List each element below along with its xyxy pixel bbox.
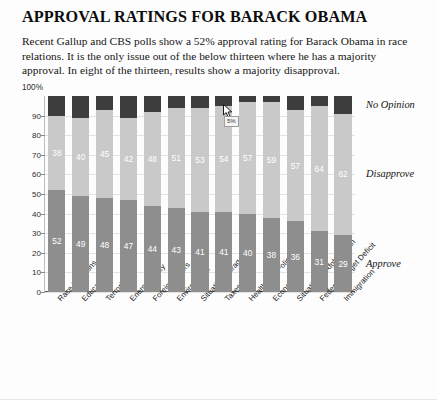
y-axis-tick-mark (40, 272, 45, 273)
y-axis-tick-label: 20 (21, 248, 41, 257)
bar-value-label: 43 (168, 245, 185, 255)
y-axis-tick-mark (40, 116, 45, 117)
infographic-page: APPROVAL RATINGS FOR BARACK OBAMA Recent… (0, 0, 437, 400)
bar-segment-no-opinion[interactable] (72, 96, 89, 118)
bar-value-label: 41 (191, 247, 208, 257)
plot-area: 01020304050607080905238Race Relations494… (45, 96, 355, 292)
bar-column[interactable]: 3657 (287, 96, 304, 292)
y-axis-max-label: 100% (22, 83, 43, 92)
bar-segment-no-opinion[interactable] (334, 96, 351, 114)
bar-segment-no-opinion[interactable] (311, 96, 328, 106)
legend-label-approve: Approve (366, 258, 401, 269)
y-axis-tick-mark (40, 135, 45, 136)
bar-column[interactable]: 4351 (168, 96, 185, 292)
summary-paragraph: Recent Gallup and CBS polls show a 52% a… (22, 34, 418, 78)
y-axis-tick-label: 10 (21, 268, 41, 277)
y-axis-tick-mark (40, 292, 45, 293)
bar-column[interactable]: 2962 (334, 96, 351, 292)
bar-value-label: 41 (215, 247, 232, 257)
legend-label-no-opinion: No Opinion (366, 99, 415, 110)
y-axis-tick-mark (40, 194, 45, 195)
bar-value-label: 49 (72, 239, 89, 249)
y-axis-tick-label: 70 (21, 150, 41, 159)
y-axis-tick-label: 90 (21, 111, 41, 120)
bar-segment-no-opinion[interactable] (191, 96, 208, 108)
bar-value-label: 47 (120, 241, 137, 251)
y-axis-tick-label: 80 (21, 131, 41, 140)
stacked-bar-chart: 100% 01020304050607080905238Race Relatio… (22, 92, 420, 304)
bar-segment-no-opinion[interactable] (96, 96, 113, 110)
y-axis-tick-label: 0 (21, 288, 41, 297)
y-axis-tick-label: 30 (21, 229, 41, 238)
page-title: APPROVAL RATINGS FOR BARACK OBAMA (22, 8, 422, 27)
bar-segment-no-opinion[interactable] (48, 96, 65, 116)
bar-value-label: 31 (311, 257, 328, 267)
bar-column[interactable]: 3164 (311, 96, 328, 292)
bar-column[interactable]: 4057 (239, 96, 256, 292)
bar-value-label: 57 (287, 161, 304, 171)
y-axis-tick-mark (40, 253, 45, 254)
bar-value-label: 59 (263, 155, 280, 165)
bar-value-label: 44 (144, 244, 161, 254)
bar-segment-no-opinion[interactable] (168, 96, 185, 108)
bar-value-label: 53 (191, 155, 208, 165)
bar-column[interactable]: 4845 (96, 96, 113, 292)
bar-value-label: 42 (120, 154, 137, 164)
bar-segment-no-opinion[interactable] (287, 96, 304, 110)
bar-value-label: 38 (48, 148, 65, 158)
bar-value-label: 40 (72, 152, 89, 162)
bar-column[interactable]: 4153 (191, 96, 208, 292)
bar-segment-no-opinion[interactable] (239, 96, 256, 102)
bar-segment-no-opinion[interactable] (120, 96, 137, 118)
bar-value-label: 64 (311, 164, 328, 174)
y-axis-tick-label: 60 (21, 170, 41, 179)
bar-value-label: 45 (96, 149, 113, 159)
bar-value-label: 52 (48, 236, 65, 246)
bar-column[interactable]: 4940 (72, 96, 89, 292)
y-axis-tick-label: 40 (21, 209, 41, 218)
bar-value-label: 29 (334, 259, 351, 269)
bar-value-label: 57 (239, 153, 256, 163)
bar-column[interactable]: 5238 (48, 96, 65, 292)
bar-value-label: 36 (287, 252, 304, 262)
y-axis-tick-mark (40, 233, 45, 234)
bar-value-label: 48 (144, 154, 161, 164)
bar-column[interactable]: 4448 (144, 96, 161, 292)
y-axis-tick-label: 50 (21, 190, 41, 199)
bar-value-label: 40 (239, 248, 256, 258)
bar-value-label: 48 (96, 240, 113, 250)
y-axis-tick-mark (40, 214, 45, 215)
bar-segment-no-opinion[interactable] (215, 96, 232, 106)
bar-segment-no-opinion[interactable] (263, 96, 280, 102)
bar-value-label: 51 (168, 153, 185, 163)
bar-column[interactable]: 3859 (263, 96, 280, 292)
bar-value-label: 38 (263, 250, 280, 260)
y-axis-tick-mark (40, 155, 45, 156)
y-axis-tick-mark (40, 174, 45, 175)
value-tooltip: 5% (224, 116, 239, 127)
bar-column[interactable]: 4742 (120, 96, 137, 292)
bar-segment-no-opinion[interactable] (144, 96, 161, 112)
bar-value-label: 62 (334, 169, 351, 179)
bar-value-label: 54 (215, 154, 232, 164)
legend-label-disapprove: Disapprove (366, 168, 414, 179)
